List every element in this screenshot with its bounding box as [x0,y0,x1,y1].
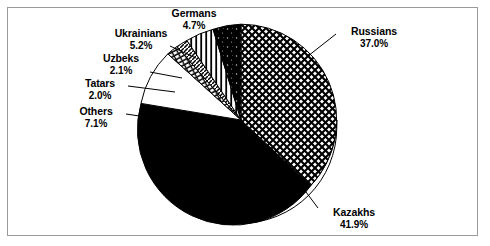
pie-label-tatars-name: Tatars [85,77,115,89]
pie-label-ukrainians-percent: 5.2% [103,40,179,52]
pie-label-kazakhs-percent: 41.9% [320,219,388,231]
pie-label-russians-percent: 37.0% [338,38,410,50]
pie-label-ukrainians-name: Ukrainians [115,27,168,39]
pie-label-tatars: Tatars 2.0% [72,78,128,101]
pie-label-uzbeks-name: Uzbeks [103,52,139,64]
pie-label-tatars-percent: 2.0% [72,90,128,102]
pie-label-ukrainians: Ukrainians 5.2% [103,28,179,51]
pie-label-others-percent: 7.1% [68,118,124,130]
pie-label-russians-name: Russians [351,25,397,37]
pie-label-others-name: Others [79,105,112,117]
pie-label-uzbeks: Uzbeks 2.1% [92,53,150,76]
pie-label-others: Others 7.1% [68,106,124,129]
leader-line-russians [308,34,336,56]
pie-label-uzbeks-percent: 2.1% [92,65,150,77]
pie-chart-screenshot: Germans 4.7% Ukrainians 5.2% Uzbeks 2.1%… [0,0,490,246]
pie-label-kazakhs-name: Kazakhs [333,206,375,218]
pie-label-kazakhs: Kazakhs 41.9% [320,207,388,230]
pie-label-russians: Russians 37.0% [338,26,410,49]
pie-label-germans-name: Germans [172,7,217,19]
